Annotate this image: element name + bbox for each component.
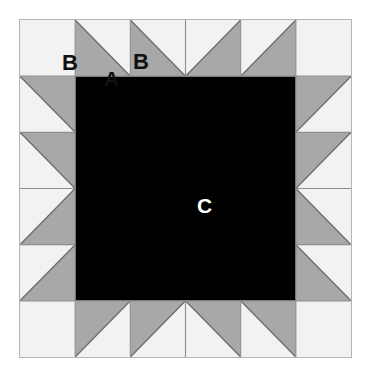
center-square-c xyxy=(75,76,296,301)
quilt-block-artwork xyxy=(20,20,351,357)
quilt-block: B A B C xyxy=(19,19,352,358)
diagram-canvas: B A B C xyxy=(0,0,370,378)
